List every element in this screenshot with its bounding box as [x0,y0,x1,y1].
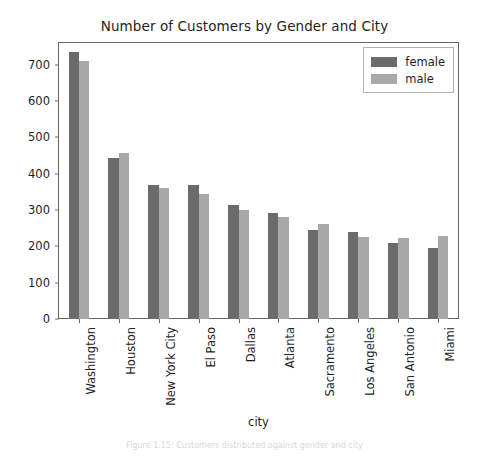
x-tick-label: Washington [84,327,98,395]
bar-male-atlanta [278,217,288,319]
bar-female-el-paso [188,185,198,319]
bar-female-san-antonio [388,243,398,319]
legend-swatch-icon [371,57,397,67]
bar-female-atlanta [268,213,278,319]
bar-male-miami [438,236,448,319]
chart-title: Number of Customers by Gender and City [0,18,489,34]
x-tick-mark [79,319,80,323]
y-tick-mark [55,319,59,320]
x-tick-mark [438,319,439,323]
x-tick-mark [398,319,399,323]
x-tick-mark [119,319,120,323]
bar-male-san-antonio [398,238,408,319]
bar-female-miami [428,248,438,319]
figure-caption: Figure 1.15: Customers distributed again… [0,441,489,450]
bar-female-dallas [228,205,238,319]
x-axis-label: city [58,415,459,429]
bar-female-washington [69,52,79,319]
bar-male-new-york-city [159,188,169,319]
x-tick-mark [239,319,240,323]
bar-female-houston [108,158,118,319]
bar-male-dallas [239,210,249,319]
x-tick-mark [199,319,200,323]
y-tick-mark [55,173,59,174]
bar-male-washington [79,61,89,319]
bar-male-los-angeles [358,237,368,319]
legend-item-male: male [371,70,445,87]
x-tick-label: El Paso [204,327,218,368]
bar-male-el-paso [199,194,209,319]
bar-female-los-angeles [348,232,358,319]
y-tick-mark [55,210,59,211]
bar-male-sacramento [318,224,328,319]
x-tick-mark [278,319,279,323]
legend-label: male [405,72,434,86]
x-tick-label: Atlanta [283,327,297,368]
x-tick-mark [318,319,319,323]
x-tick-label: Houston [124,327,138,375]
legend-item-female: female [371,53,445,70]
x-tick-label: New York City [164,327,178,406]
bar-female-sacramento [308,230,318,319]
y-tick-mark [55,101,59,102]
x-tick-label: Sacramento [323,327,337,397]
bar-female-new-york-city [148,185,158,319]
y-tick-mark [55,64,59,65]
plot-area: 0100200300400500600700 WashingtonHouston… [59,43,458,319]
y-tick-mark [55,282,59,283]
chart-figure: Number of Customers by Gender and City 0… [0,0,489,457]
y-tick-mark [55,246,59,247]
x-tick-label: Los Angeles [363,327,377,396]
y-tick-mark [55,137,59,138]
chart-legend: femalemale [363,47,454,93]
legend-swatch-icon [371,74,397,84]
x-tick-label: San Antonio [403,327,417,397]
x-tick-label: Miami [443,327,457,362]
x-tick-mark [159,319,160,323]
legend-label: female [405,55,445,69]
x-tick-label: Dallas [244,327,258,362]
x-tick-mark [358,319,359,323]
bar-male-houston [119,153,129,319]
